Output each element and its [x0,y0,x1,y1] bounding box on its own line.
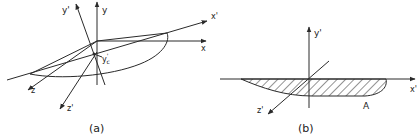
area-label: A [363,101,370,111]
x-prime-axis [7,21,207,80]
x-axis-label: x [201,44,206,53]
z-prime-axis [60,52,97,109]
figure-a-caption: (a) [89,122,104,135]
z-axis [28,41,97,90]
hatched-area [241,79,386,96]
y-prime-axis-label: y' [62,5,70,15]
y-prime-axis [76,4,105,85]
z-prime-axis-label: z' [67,104,73,113]
figure-b-caption: (b) [298,122,314,135]
x-prime-axis-label: x' [211,12,218,21]
yc-prime-label: y'c [102,52,110,65]
figure-a: y y' x x' z z' y'c (a) [7,2,218,135]
z-axis-label: z [31,86,35,95]
y-axis-label: y [102,5,108,15]
b-x-prime-axis-label: x' [410,85,417,94]
section-outline [30,33,168,77]
diagram-canvas: y y' x x' z z' y'c (a) x' y' z' [0,0,418,139]
figure-b: x' y' z' A (b) [220,27,417,135]
b-y-prime-axis-label: y' [314,28,322,38]
b-z-prime-axis-label: z' [257,106,263,115]
